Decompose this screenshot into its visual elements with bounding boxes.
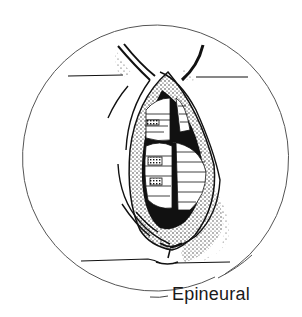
label-leader-line — [150, 296, 168, 297]
circle-arc-tail — [218, 255, 252, 278]
epineural-repair-illustration — [0, 0, 302, 317]
epineural-label: Epineural — [172, 284, 250, 304]
